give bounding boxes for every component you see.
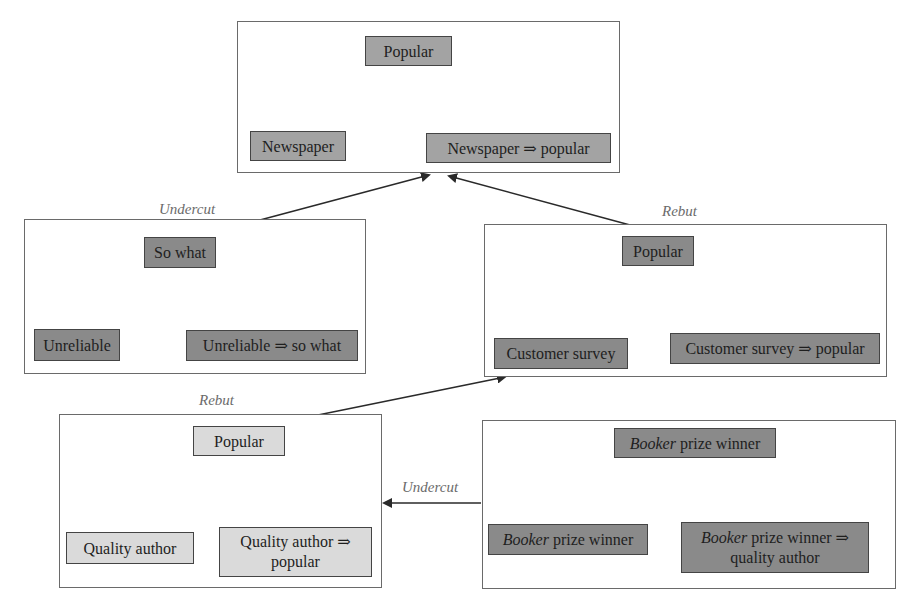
attack-label-rebut-bottom-left: Rebut: [199, 392, 234, 409]
premise-node-unreliable[interactable]: Unreliable: [34, 329, 120, 361]
attack-label-undercut-bottom: Undercut: [402, 479, 458, 496]
claim-node-popular-rebut[interactable]: Popular: [622, 236, 694, 266]
premise-line-2: popular: [271, 552, 320, 572]
premise-rest: prize winner: [549, 530, 633, 549]
premise-node-customer-survey-implies-popular[interactable]: Customer survey ⇒ popular: [670, 333, 880, 364]
claim-node-popular-quality[interactable]: Popular: [193, 426, 285, 456]
claim-node-so-what[interactable]: So what: [144, 237, 216, 268]
premise-node-booker-implies-quality-author[interactable]: Booker prize winner ⇒ quality author: [681, 522, 869, 573]
premise-node-newspaper[interactable]: Newspaper: [250, 131, 346, 161]
premise-italic: Booker: [701, 529, 747, 546]
premise-node-quality-author[interactable]: Quality author: [66, 532, 194, 564]
premise-node-unreliable-implies-so-what[interactable]: Unreliable ⇒ so what: [186, 330, 358, 361]
premise-node-quality-author-implies-popular[interactable]: Quality author ⇒ popular: [219, 527, 372, 577]
premise-italic: Booker: [503, 530, 549, 549]
claim-node-booker-prize-winner[interactable]: Booker prize winner: [614, 428, 776, 458]
attack-label-undercut-left: Undercut: [159, 201, 215, 218]
premise-node-customer-survey[interactable]: Customer survey: [494, 338, 628, 369]
premise-node-newspaper-implies-popular[interactable]: Newspaper ⇒ popular: [426, 133, 611, 163]
premise-line-1: Quality author ⇒: [240, 532, 350, 552]
claim-italic: Booker: [630, 434, 676, 453]
claim-node-popular-top[interactable]: Popular: [365, 36, 452, 66]
attack-label-rebut-right: Rebut: [662, 203, 697, 220]
premise-node-booker-prize-winner[interactable]: Booker prize winner: [488, 524, 648, 555]
premise-line-2: quality author: [730, 548, 819, 568]
premise-line-1: Booker prize winner ⇒: [701, 528, 849, 548]
premise-rest: prize winner ⇒: [747, 529, 849, 546]
claim-rest: prize winner: [676, 434, 760, 453]
